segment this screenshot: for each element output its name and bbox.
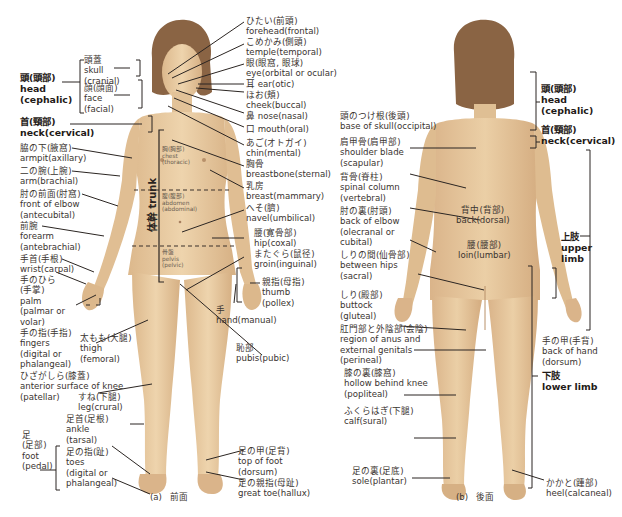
label-back-of-hand: 手の甲(手背) back of hand (dorsum) bbox=[542, 336, 598, 367]
label-back-dorsal: 背中(背部) back(dorsal) bbox=[456, 205, 510, 226]
label-arm: 二の腕(上腕) arm(brachial) bbox=[20, 166, 78, 187]
label-navel: へそ(臍) navel(umbilical) bbox=[246, 203, 315, 224]
label-perineal: 肛門部と外陰部(会陰) region of anus and external … bbox=[340, 324, 428, 366]
label-skull: 頭蓋 skull (cranial) bbox=[84, 55, 120, 86]
label-between-hips: しりの間(仙骨部) between hips (sacral) bbox=[340, 250, 410, 281]
label-sole: 足の裏(足底) sole(plantar) bbox=[352, 466, 407, 487]
label-heel: かかと(踵部) heel(calcaneal) bbox=[546, 478, 612, 499]
label-pubis: 恥部 pubis(pubic) bbox=[236, 343, 289, 364]
label-armpit: 脇の下(腋窩) armpit(axillary) bbox=[20, 143, 86, 164]
label-eye: 眼(眼窩, 眼球) eye(orbital or ocular) bbox=[246, 58, 337, 79]
label-top-of-foot: 足の甲(足背) top of foot (dorsum) bbox=[238, 446, 290, 477]
label-neck-back: 首(頸部) neck(cervical) bbox=[541, 124, 615, 146]
label-chest: 胸(胸部) chest (thoracic) bbox=[162, 146, 190, 166]
label-toes: 足の指(趾) toes (digital or phalangeal) bbox=[66, 447, 117, 489]
label-face: 顔(顔面) face (facial) bbox=[84, 83, 118, 114]
label-fingers: 手の指(手指) fingers (digital or phalangeal) bbox=[20, 328, 72, 370]
label-cheek: ほお(頬) cheek(buccal) bbox=[246, 90, 306, 111]
label-chin: あご(オトガイ) chin(mental) bbox=[246, 138, 307, 159]
label-breastbone: 胸骨 breastbone(sternal) bbox=[246, 159, 331, 180]
label-forearm: 前腕 forearm (antebrachial) bbox=[20, 221, 81, 252]
label-shoulder-blade: 肩甲骨(肩甲部) shoulder blade (scapular) bbox=[340, 137, 404, 168]
label-head-front: 頭(頭部) head (cephalic) bbox=[20, 72, 72, 106]
label-ankle: 足首(足根) ankle (tarsal) bbox=[66, 414, 109, 445]
label-pelvis: 骨盤 pelvis (pelvic) bbox=[162, 249, 184, 269]
label-groin: またぐら(鼠径) groin(inguinal) bbox=[254, 249, 317, 270]
label-loin: 腰(腰部) loin(lumbar) bbox=[458, 240, 511, 261]
label-head-back: 頭(頭部) head (cephalic) bbox=[541, 83, 593, 117]
label-spinal-column: 背骨(脊柱) spinal column (vertebral) bbox=[340, 172, 400, 203]
label-nose: 鼻 nose(nasal) bbox=[246, 111, 308, 121]
label-lower-limb: 下肢 lower limb bbox=[542, 370, 597, 392]
label-great-toe: 足の親指(母趾) great toe(hallux) bbox=[238, 478, 310, 499]
caption-front: (a) 前面 bbox=[150, 490, 188, 502]
label-front-of-elbow: 肘の前面(肘窩) front of elbow (antecubital) bbox=[20, 189, 81, 220]
label-back-of-elbow: 肘の裏(肘頭) back of elbow (olecranal or cubi… bbox=[340, 206, 400, 248]
label-calf: ふくらはぎ(下腿) calf(sural) bbox=[344, 406, 414, 427]
label-wrist: 手首(手根) wrist(carpal) bbox=[20, 254, 74, 275]
label-hip: 腰(寛骨部) hip(coxal) bbox=[254, 228, 297, 249]
label-base-of-skull: 頭のつけ根(後頭) base of skull(occipital) bbox=[340, 111, 436, 132]
label-buttock: しり(殿部) buttock (gluteal) bbox=[340, 290, 383, 321]
label-forehead: ひたい(前頭) forehead(frontal) bbox=[246, 16, 319, 37]
label-mouth: 口 mouth(oral) bbox=[246, 124, 309, 134]
label-neck-front: 首(頸部) neck(cervical) bbox=[20, 116, 94, 138]
label-trunk: 体幹 trunk bbox=[144, 178, 159, 232]
label-breast: 乳房 breast(mammary) bbox=[246, 181, 324, 202]
label-leg: すね(下腿) leg(crural) bbox=[78, 392, 123, 413]
label-foot: 足 (足部) foot (pedal) bbox=[22, 430, 53, 472]
label-thigh: 太もも(大腿) thigh (femoral) bbox=[80, 333, 132, 364]
label-thumb: 親指(母指) thumb (pollex) bbox=[262, 277, 305, 308]
label-upper-limb: 上肢 upper limb bbox=[561, 231, 592, 265]
label-abdomen: 腹(腹部) abdomen (abdominal) bbox=[162, 193, 197, 213]
label-hand: 手 hand(manual) bbox=[216, 305, 277, 326]
label-palm: 手のひら (手掌) palm (palmar or volar) bbox=[20, 275, 65, 327]
label-hollow-behind-knee: 膝の裏(膝窩) hollow behind knee (popliteal) bbox=[344, 368, 428, 399]
label-temple: こめかみ(側頭) temple(temporal) bbox=[246, 37, 322, 58]
label-ear: 耳 ear(otic) bbox=[246, 79, 294, 89]
caption-back: (b) 後面 bbox=[456, 490, 494, 502]
